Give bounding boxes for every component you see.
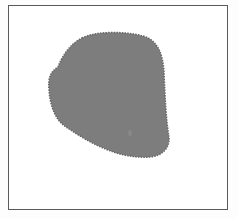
blob-shape bbox=[0, 0, 238, 219]
gray-blob bbox=[49, 32, 169, 157]
blob-highlight bbox=[128, 130, 132, 136]
